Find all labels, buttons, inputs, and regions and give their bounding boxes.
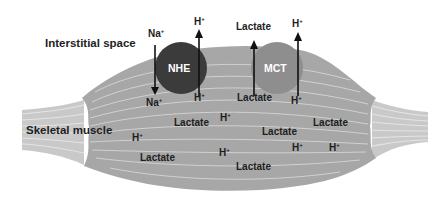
h-ion-outside-nhe: H+ [194,17,205,27]
h-ion-inside: H+ [329,143,340,153]
h-ion-inside: H+ [220,113,231,123]
lactate-inside: Lactate [174,118,209,128]
interstitial-space-label: Interstitial space [45,38,136,50]
h-ion-inside: H+ [219,148,230,158]
lactate-outside: Lactate [236,22,271,32]
na-ion-inside: Na+ [146,98,162,108]
lactate-inside: Lactate [140,153,175,163]
lactate-inside: Lactate [237,93,272,103]
h-ion-inside: H+ [292,143,303,153]
h-ion-inside: H+ [291,96,302,106]
h-ion-outside-mct: H+ [292,19,303,29]
muscle-illustration [0,0,443,199]
diagram-canvas: Interstitial space Skeletal muscle NHE M… [0,0,443,199]
h-ion-inside: H+ [132,133,143,143]
nhe-label: NHE [168,63,190,74]
na-ion-outside: Na+ [148,29,164,39]
lactate-inside: Lactate [262,127,297,137]
mct-label: MCT [264,63,287,74]
lactate-inside: Lactate [236,162,271,172]
h-ion-inside: H+ [194,93,205,103]
right-tendon [372,100,428,160]
skeletal-muscle-label: Skeletal muscle [26,125,112,137]
lactate-inside: Lactate [313,118,348,128]
